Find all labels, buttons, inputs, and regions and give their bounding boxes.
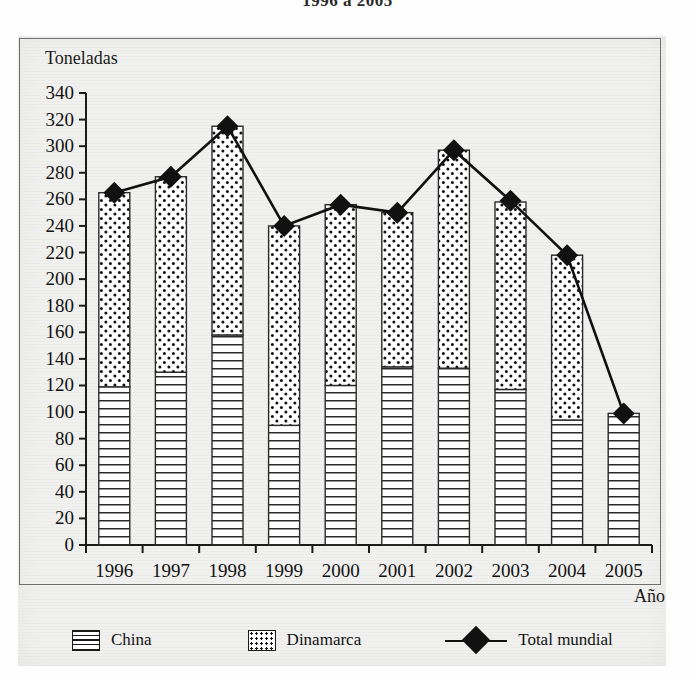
y-tick-label: 340 <box>46 82 75 103</box>
chart-page: 1996 a 2005 Toneladas Año 19961997199819… <box>0 0 695 680</box>
x-tick-label: 2004 <box>548 560 587 581</box>
bar-segment-dinamarca <box>212 126 243 335</box>
bar-segment-china <box>382 367 413 545</box>
legend-item-dinamarca: Dinamarca <box>248 630 362 651</box>
x-tick-label: 1999 <box>265 560 303 581</box>
y-tick-label: 200 <box>46 268 75 289</box>
bar-segment-dinamarca <box>99 193 130 387</box>
legend-swatch-dinamarca-icon <box>248 630 276 651</box>
y-tick-label: 120 <box>46 374 75 395</box>
bar-segment-dinamarca <box>382 213 413 367</box>
legend-item-total-mundial: Total mundial <box>445 630 613 650</box>
chart-canvas: 1996199719981999200020012002200320042005… <box>0 0 695 680</box>
x-tick-label: 1996 <box>95 560 133 581</box>
y-tick-label: 300 <box>46 135 75 156</box>
y-tick-label: 140 <box>46 348 75 369</box>
y-tick-label: 40 <box>55 481 74 502</box>
total-mundial-line <box>114 126 623 413</box>
bar-segment-china <box>269 425 300 545</box>
y-tick-label: 20 <box>55 507 74 528</box>
bar-segment-dinamarca <box>155 177 186 372</box>
bar-segment-china <box>325 385 356 545</box>
bar-segment-dinamarca <box>269 226 300 425</box>
x-tick-label: 2001 <box>378 560 416 581</box>
y-tick-label: 220 <box>46 242 75 263</box>
bar-segment-china <box>438 368 469 545</box>
bar-segment-china <box>495 389 526 545</box>
y-tick-label: 180 <box>46 295 75 316</box>
y-tick-label: 0 <box>65 534 75 555</box>
y-tick-label: 260 <box>46 188 75 209</box>
y-tick-label: 240 <box>46 215 75 236</box>
legend-diamond-marker-icon <box>445 631 507 650</box>
y-tick-label: 280 <box>46 162 75 183</box>
legend-label-dinamarca: Dinamarca <box>287 630 362 650</box>
y-tick-label: 80 <box>55 428 74 449</box>
bar-segment-dinamarca <box>552 255 583 420</box>
bar-segment-china <box>212 335 243 545</box>
x-tick-label: 2005 <box>605 560 643 581</box>
y-tick-label: 320 <box>46 109 75 130</box>
chart-legend: China Dinamarca Total mundial <box>50 625 650 655</box>
legend-label-china: China <box>111 630 152 650</box>
bar-segment-dinamarca <box>495 202 526 389</box>
y-tick-label: 60 <box>55 454 74 475</box>
legend-label-total-mundial: Total mundial <box>518 630 613 650</box>
legend-item-china: China <box>72 630 152 651</box>
bars-layer <box>99 126 639 545</box>
x-tick-labels: 1996199719981999200020012002200320042005 <box>95 560 642 581</box>
x-tick-label: 1997 <box>152 560 190 581</box>
bar-segment-china <box>552 420 583 545</box>
y-tick-label: 160 <box>46 321 75 342</box>
x-tick-label: 1998 <box>209 560 247 581</box>
x-tick-label: 2000 <box>322 560 360 581</box>
legend-swatch-china-icon <box>72 630 100 651</box>
x-tick-label: 2002 <box>435 560 473 581</box>
bar-segment-china <box>99 387 130 545</box>
bar-segment-dinamarca <box>438 150 469 368</box>
y-tick-label: 100 <box>46 401 75 422</box>
y-tick-labels: 0204060801001201401601802002202402602803… <box>46 82 75 555</box>
bar-segment-dinamarca <box>325 205 356 386</box>
x-tick-label: 2003 <box>492 560 530 581</box>
bar-segment-china <box>608 413 639 545</box>
bar-segment-china <box>155 372 186 545</box>
